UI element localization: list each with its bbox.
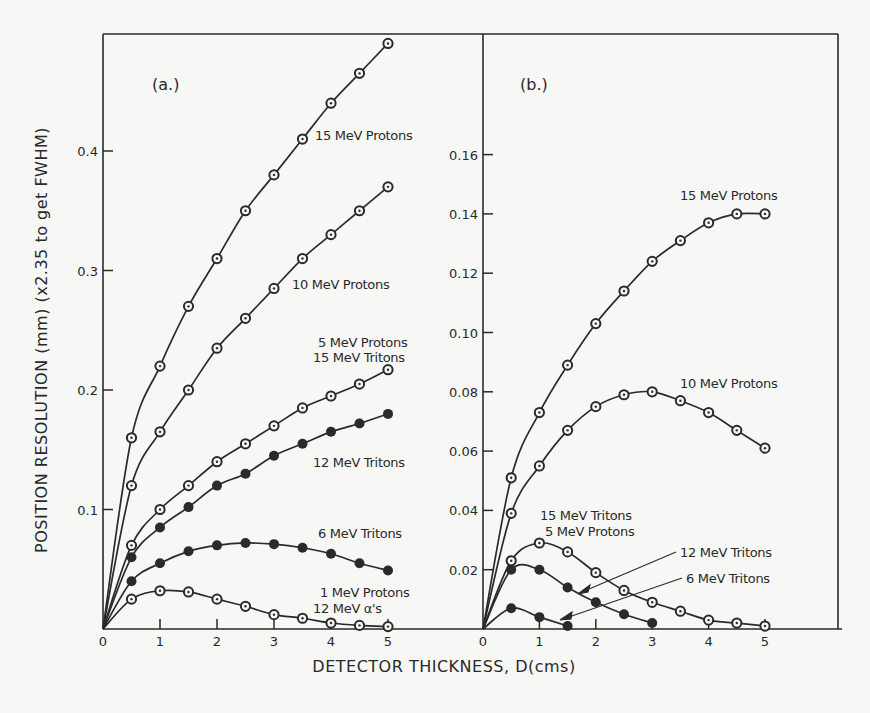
panel-a-tag: (a.)	[152, 75, 179, 94]
marker-dot	[679, 399, 681, 401]
marker-dot	[707, 222, 709, 224]
label-a-12mev-alphas: 12 MeV α's	[313, 601, 382, 616]
label-b-5mev-protons: 5 MeV Protons	[545, 524, 635, 539]
marker-dot	[707, 411, 709, 413]
panel-b-x-ticks: 012345	[479, 619, 769, 649]
marker-dot	[651, 601, 653, 603]
marker-dot	[130, 544, 132, 546]
marker-dot	[566, 551, 568, 553]
marker-dot	[764, 213, 766, 215]
marker-dot	[623, 290, 625, 292]
x-tick-label: 2	[213, 634, 221, 649]
y-axis-title: POSITION RESOLUTION (mm) (x2.35 to get F…	[32, 127, 51, 553]
label-a-1mev-protons: 1 MeV Protons	[320, 585, 410, 600]
marker-dot	[707, 619, 709, 621]
filled-marker	[241, 469, 251, 479]
filled-marker	[326, 549, 336, 559]
filled-marker	[355, 418, 365, 428]
figure: (a.) (b.) POSITION RESOLUTION (mm) (x2.3…	[0, 0, 870, 713]
series-b-6-mev-tritons	[483, 603, 573, 631]
marker-dot	[130, 598, 132, 600]
marker-dot	[358, 210, 360, 212]
marker-dot	[387, 186, 389, 188]
marker-dot	[187, 484, 189, 486]
marker-dot	[651, 260, 653, 262]
marker-dot	[301, 257, 303, 259]
marker-dot	[159, 508, 161, 510]
filled-marker	[563, 582, 573, 592]
marker-dot	[538, 465, 540, 467]
filled-marker	[212, 481, 222, 491]
filled-marker	[269, 539, 279, 549]
filled-marker	[383, 565, 393, 575]
marker-dot	[187, 389, 189, 391]
marker-dot	[358, 383, 360, 385]
filled-marker	[155, 522, 165, 532]
arrowhead-6mev-tritons	[560, 612, 572, 620]
marker-dot	[387, 625, 389, 627]
panel-b-tag: (b.)	[520, 75, 548, 94]
label-b-6mev-tritons: 6 MeV Tritons	[686, 571, 770, 586]
marker-dot	[216, 598, 218, 600]
marker-dot	[736, 429, 738, 431]
marker-dot	[330, 622, 332, 624]
marker-dot	[330, 395, 332, 397]
marker-dot	[273, 287, 275, 289]
marker-dot	[216, 461, 218, 463]
marker-dot	[387, 368, 389, 370]
label-a-15mev-tritons: 15 MeV Tritons	[313, 350, 405, 365]
x-axis-title: DETECTOR THICKNESS, D(cms)	[312, 657, 575, 676]
marker-dot	[764, 625, 766, 627]
marker-dot	[538, 542, 540, 544]
y-tick-label: 0.02	[449, 563, 478, 578]
y-tick-label: 0.3	[77, 264, 98, 279]
marker-dot	[510, 560, 512, 562]
marker-dot	[273, 425, 275, 427]
marker-dot	[216, 257, 218, 259]
marker-dot	[187, 305, 189, 307]
y-tick-label: 0.14	[449, 207, 478, 222]
x-tick-label: 4	[327, 634, 335, 649]
x-tick-label: 3	[270, 634, 278, 649]
x-tick-label: 0	[99, 634, 107, 649]
label-b-15mev-tritons: 15 MeV Tritons	[540, 508, 632, 523]
marker-dot	[387, 42, 389, 44]
filled-marker	[127, 576, 137, 586]
x-tick-label: 3	[648, 634, 656, 649]
marker-dot	[244, 605, 246, 607]
filled-marker	[591, 597, 601, 607]
y-tick-label: 0.1	[77, 503, 98, 518]
marker-dot	[736, 213, 738, 215]
marker-dot	[301, 617, 303, 619]
filled-marker	[506, 565, 516, 575]
marker-dot	[301, 138, 303, 140]
y-tick-label: 0.4	[77, 144, 98, 159]
marker-dot	[679, 610, 681, 612]
marker-dot	[538, 411, 540, 413]
y-tick-label: 0.04	[449, 503, 478, 518]
filled-marker	[534, 612, 544, 622]
panel-b-y-ticks: 0.020.040.060.080.100.120.140.16	[449, 148, 493, 578]
filled-marker	[647, 618, 657, 628]
marker-dot	[736, 622, 738, 624]
y-tick-label: 0.2	[77, 383, 98, 398]
y-tick-label: 0.10	[449, 326, 478, 341]
x-tick-label: 5	[384, 634, 392, 649]
filled-marker	[534, 565, 544, 575]
filled-marker	[212, 540, 222, 550]
marker-dot	[595, 571, 597, 573]
marker-dot	[216, 347, 218, 349]
marker-dot	[130, 437, 132, 439]
marker-dot	[358, 624, 360, 626]
filled-marker	[563, 621, 573, 631]
x-tick-label: 1	[535, 634, 543, 649]
marker-dot	[244, 443, 246, 445]
x-tick-label: 1	[156, 634, 164, 649]
marker-dot	[566, 429, 568, 431]
label-a-15mev-protons: 15 MeV Protons	[315, 128, 413, 143]
marker-dot	[358, 72, 360, 74]
filled-marker	[155, 558, 165, 568]
marker-dot	[595, 322, 597, 324]
panel-b-series	[483, 209, 770, 631]
marker-dot	[623, 589, 625, 591]
